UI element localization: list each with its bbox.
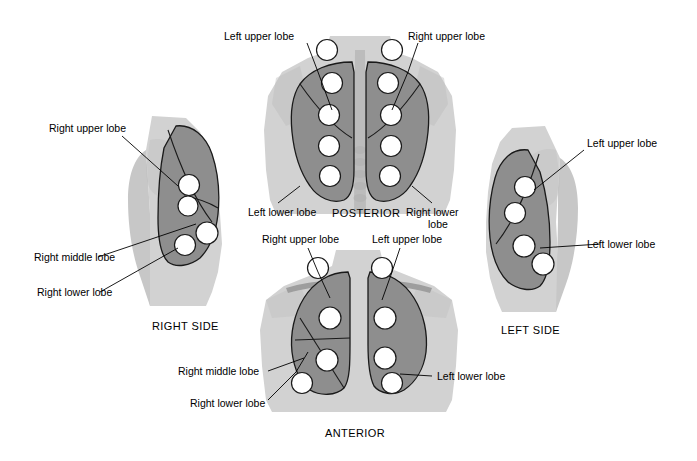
auscultation-point [175, 235, 196, 256]
auscultation-point [317, 40, 338, 61]
auscultation-point [372, 258, 393, 279]
auscultation-point [319, 307, 341, 329]
auscultation-point [513, 235, 535, 257]
posterior-label-left-upper: Left upper lobe [224, 30, 294, 42]
left-side-label-upper: Left upper lobe [587, 137, 657, 149]
right-side-label-lower: Right lower lobe [37, 286, 112, 298]
auscultation-point [374, 347, 396, 369]
view-posterior: Left upper lobe Right upper lobe Left lo… [224, 30, 485, 230]
right-side-label-upper: Right upper lobe [49, 122, 126, 134]
right-side-label-middle: Right middle lobe [34, 251, 115, 263]
posterior-label-right-lower-line2: lobe [428, 218, 448, 230]
posterior-label-left-lower: Left lower lobe [248, 206, 316, 218]
left-side-label-lower: Left lower lobe [587, 238, 655, 250]
auscultation-point [319, 136, 340, 157]
auscultation-point [319, 105, 340, 126]
view-anterior: Right upper lobe Left upper lobe Right m… [178, 233, 505, 439]
anterior-label-right-middle: Right middle lobe [178, 365, 259, 377]
anterior-label-right-lower: Right lower lobe [190, 397, 265, 409]
posterior-caption: POSTERIOR [332, 207, 400, 219]
anterior-caption: ANTERIOR [325, 427, 385, 439]
auscultation-point [196, 222, 218, 244]
posterior-label-right-lower-line1: Right lower [406, 206, 459, 218]
auscultation-point [320, 166, 341, 187]
anterior-torso-silhouette [260, 250, 458, 412]
auscultation-point [382, 40, 403, 61]
auscultation-point [292, 373, 313, 394]
auscultation-point [308, 258, 329, 279]
auscultation-point [378, 73, 399, 94]
left-side-caption: LEFT SIDE [501, 324, 560, 336]
posterior-label-right-upper: Right upper lobe [408, 30, 485, 42]
auscultation-point [178, 196, 198, 216]
auscultation-point [316, 349, 338, 371]
auscultation-point [382, 373, 403, 394]
auscultation-point [381, 105, 402, 126]
right-side-caption: RIGHT SIDE [152, 320, 219, 332]
anterior-label-left-lower: Left lower lobe [437, 370, 505, 382]
auscultation-point [179, 175, 200, 196]
anterior-label-left-upper: Left upper lobe [372, 233, 442, 245]
anterior-label-right-upper: Right upper lobe [262, 233, 339, 245]
auscultation-point [515, 177, 536, 198]
view-left-side: Left upper lobe Left lower lobe LEFT SID… [486, 126, 657, 336]
auscultation-point [374, 307, 396, 329]
diagram-canvas: Left upper lobe Right upper lobe Left lo… [0, 0, 697, 461]
auscultation-point [505, 203, 526, 224]
auscultation-point [532, 253, 554, 275]
view-right-side: Right upper lobe Right middle lobe Right… [34, 116, 222, 332]
auscultation-point [380, 166, 401, 187]
auscultation-point [381, 136, 402, 157]
